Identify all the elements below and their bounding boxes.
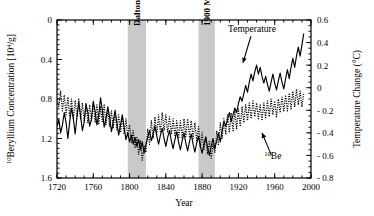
y-right-tick-label: - 0.6: [317, 151, 334, 161]
annotation-label-be10: 10Be: [264, 150, 281, 161]
y-left-tick-label: 0.8: [41, 94, 53, 104]
x-tick-label: 2000: [302, 182, 321, 192]
y-right-tick-label: 0.6: [317, 15, 329, 25]
y-right-tick-label: - 0.4: [317, 128, 334, 138]
x-tick-label: 1760: [84, 182, 103, 192]
y-right-tick-label: 0.2: [317, 61, 328, 71]
x-tick-label: 1720: [48, 182, 67, 192]
shaded-band-dalton-minimum: [128, 20, 146, 178]
band-label-1900-minimum: 1900 Minimum: [202, 0, 212, 26]
y-left-tick-label: 1.6: [41, 173, 53, 183]
x-tick-label: 1920: [229, 182, 248, 192]
y-left-tick-label: 1.2: [41, 134, 52, 144]
y-right-tick-label: 0: [317, 83, 322, 93]
y-right-tick-label: 0.4: [317, 38, 329, 48]
shaded-band-1900-minimum: [199, 20, 215, 178]
y-right-tick-label: - 0.2: [317, 106, 334, 116]
y-right-tick-label: - 0.8: [317, 173, 334, 183]
y-left-tick-label: 0: [48, 15, 53, 25]
annotation-temperature: [242, 36, 251, 63]
beryllium-temperature-chart: Dalton Minimum1900 Minimum17201760180018…: [0, 0, 374, 216]
series-temperature: [57, 34, 304, 156]
x-tick-label: 1880: [193, 182, 212, 192]
y-right-axis-title: Temperature Change (°C): [352, 50, 363, 148]
x-tick-label: 1800: [121, 182, 140, 192]
y-left-axis-title: 10Beryllium Concentration [104/g]: [5, 34, 16, 164]
y-left-tick-label: 0.4: [41, 55, 53, 65]
figure-container: Dalton Minimum1900 Minimum17201760180018…: [0, 0, 374, 216]
band-label-dalton-minimum: Dalton Minimum: [132, 0, 142, 26]
x-tick-label: 1840: [157, 182, 176, 192]
x-tick-label: 1960: [266, 182, 285, 192]
annotation-label-temperature: Temperature: [228, 24, 276, 34]
x-axis-title: Year: [175, 198, 193, 208]
